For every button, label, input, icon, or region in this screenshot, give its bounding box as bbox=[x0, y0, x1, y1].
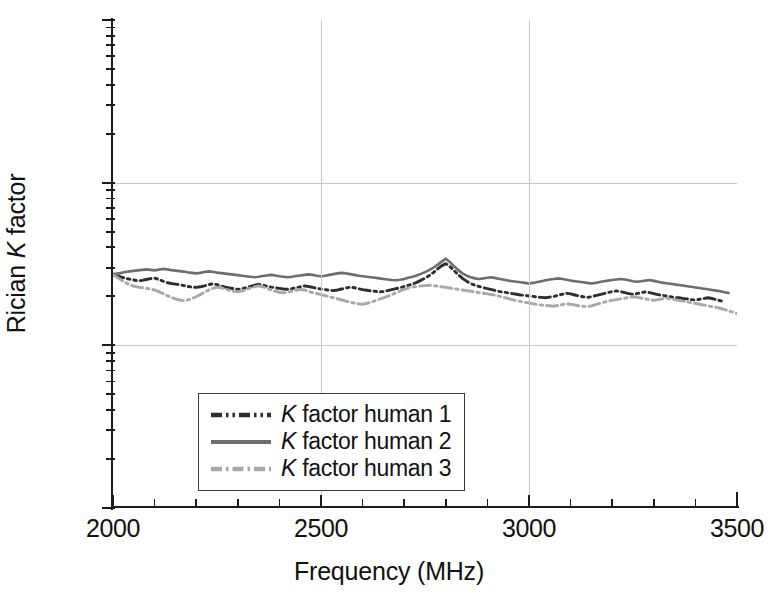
y-tick-minor bbox=[106, 218, 115, 220]
y-tick-minor bbox=[106, 409, 115, 411]
legend-line-sample bbox=[210, 435, 272, 449]
x-tick-major bbox=[320, 495, 322, 508]
x-tick-minor bbox=[445, 499, 447, 508]
x-axis-title: Frequency (MHz) bbox=[0, 557, 778, 586]
x-tick-major bbox=[528, 495, 530, 508]
y-tick-minor bbox=[106, 207, 115, 209]
x-tick-minor bbox=[279, 499, 281, 508]
legend-item: K factor human 1 bbox=[210, 401, 451, 428]
legend-label: K factor human 3 bbox=[281, 455, 451, 482]
y-tick-minor bbox=[106, 104, 115, 106]
x-tick-label: 2000 bbox=[53, 514, 173, 543]
y-tick-minor bbox=[106, 68, 115, 70]
y-tick-minor bbox=[106, 360, 115, 362]
y-tick-minor bbox=[106, 35, 115, 37]
legend-item: K factor human 3 bbox=[210, 455, 451, 482]
x-tick-minor bbox=[237, 499, 239, 508]
y-tick-minor bbox=[106, 370, 115, 372]
legend-label: K factor human 1 bbox=[281, 401, 451, 428]
y-tick-minor bbox=[106, 198, 115, 200]
x-tick-major bbox=[736, 495, 738, 508]
legend-line-sample bbox=[210, 408, 272, 422]
x-tick-minor bbox=[154, 499, 156, 508]
legend-item: K factor human 2 bbox=[210, 428, 451, 455]
y-tick-minor bbox=[106, 84, 115, 86]
x-tick-minor bbox=[653, 499, 655, 508]
series-line bbox=[113, 259, 729, 293]
y-tick-minor bbox=[106, 381, 115, 383]
x-tick-label: 3500 bbox=[677, 514, 778, 543]
x-tick-label: 2500 bbox=[261, 514, 381, 543]
y-tick-minor bbox=[106, 267, 115, 269]
y-tick-minor bbox=[106, 133, 115, 135]
y-tick-major bbox=[102, 344, 115, 346]
x-tick-major bbox=[112, 495, 114, 508]
y-tick-minor bbox=[106, 246, 115, 248]
hgridline bbox=[113, 345, 737, 346]
x-tick-minor bbox=[487, 499, 489, 508]
legend-line-sample bbox=[210, 462, 272, 476]
legend-label: K factor human 2 bbox=[281, 428, 451, 455]
y-tick-minor bbox=[106, 429, 115, 431]
y-tick-minor bbox=[106, 231, 115, 233]
vgridline bbox=[529, 20, 530, 508]
y-tick-minor bbox=[106, 44, 115, 46]
y-tick-minor bbox=[106, 458, 115, 460]
y-tick-major bbox=[102, 19, 115, 21]
hgridline bbox=[113, 183, 737, 184]
x-tick-minor bbox=[695, 499, 697, 508]
x-tick-label: 3000 bbox=[469, 514, 589, 543]
x-tick-minor bbox=[611, 499, 613, 508]
y-tick-minor bbox=[106, 352, 115, 354]
y-tick-minor bbox=[106, 393, 115, 395]
figure-rician-k-factor: 1E–30.010.11 2000250030003500 Frequency … bbox=[0, 0, 778, 605]
y-tick-minor bbox=[106, 189, 115, 191]
x-tick-minor bbox=[570, 499, 572, 508]
y-tick-minor bbox=[106, 27, 115, 29]
y-axis-title-symbol: K bbox=[2, 242, 30, 258]
x-tick-minor bbox=[403, 499, 405, 508]
x-tick-minor bbox=[362, 499, 364, 508]
y-tick-major bbox=[102, 182, 115, 184]
x-tick-minor bbox=[195, 499, 197, 508]
y-axis-title: Rician K factor bbox=[2, 0, 31, 514]
y-tick-minor bbox=[106, 55, 115, 57]
y-tick-minor bbox=[106, 295, 115, 297]
legend: K factor human 1K factor human 2K factor… bbox=[198, 393, 465, 491]
